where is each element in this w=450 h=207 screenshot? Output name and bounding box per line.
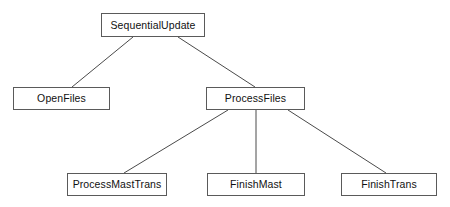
node-label: ProcessFiles	[225, 93, 286, 104]
node-label: FinishTrans	[361, 179, 417, 190]
edge-processfiles-finishtrans	[288, 110, 386, 173]
node-sequential-update[interactable]: SequentialUpdate	[101, 13, 205, 37]
diagram-canvas: SequentialUpdate OpenFiles ProcessFiles …	[0, 0, 450, 207]
node-label: SequentialUpdate	[110, 19, 195, 30]
node-process-files[interactable]: ProcessFiles	[206, 87, 305, 110]
edge-sequentialupdate-openfiles	[72, 37, 133, 87]
node-label: OpenFiles	[37, 93, 86, 104]
edge-processfiles-processmasttrans	[124, 110, 228, 173]
node-open-files[interactable]: OpenFiles	[13, 87, 110, 110]
node-label: ProcessMastTrans	[73, 179, 162, 190]
node-finish-mast[interactable]: FinishMast	[207, 173, 305, 196]
edge-sequentialupdate-processfiles	[178, 37, 255, 87]
node-label: FinishMast	[230, 179, 282, 190]
node-process-mast-trans[interactable]: ProcessMastTrans	[67, 173, 167, 196]
node-finish-trans[interactable]: FinishTrans	[341, 173, 437, 196]
